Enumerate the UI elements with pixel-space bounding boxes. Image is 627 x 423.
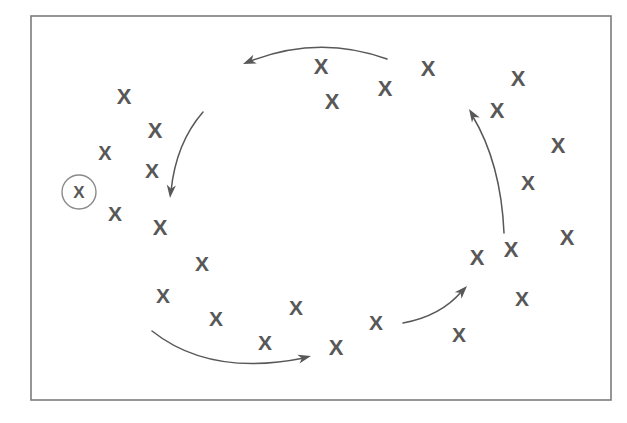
x-marker: X	[521, 171, 535, 194]
x-marker: X	[421, 56, 436, 81]
x-marker: X	[148, 118, 163, 143]
x-marker: X	[195, 252, 209, 275]
x-marker: X	[209, 307, 223, 330]
x-marker: X	[145, 159, 159, 182]
x-marker: X	[551, 133, 566, 158]
x-marker: X	[504, 237, 519, 262]
x-marker: X	[490, 98, 505, 123]
x-marker: X	[289, 296, 303, 319]
x-marker: X	[560, 225, 575, 250]
diagram-figure: XXXXXXXXXXXXXXXXXXXXXXXXXX X	[0, 0, 627, 423]
diagram-canvas: XXXXXXXXXXXXXXXXXXXXXXXXXX X	[0, 0, 627, 423]
x-marker: X	[515, 287, 529, 310]
x-marker: X	[329, 335, 344, 360]
x-marker-highlighted: X	[73, 183, 85, 202]
x-marker: X	[153, 215, 168, 240]
x-marker: X	[98, 142, 112, 164]
x-marker: X	[378, 76, 393, 101]
x-marker: X	[108, 202, 122, 225]
x-marker: X	[452, 323, 466, 346]
x-marker: X	[325, 89, 340, 114]
x-marker: X	[511, 66, 526, 91]
x-marker: X	[258, 331, 272, 354]
x-marker: X	[369, 311, 383, 334]
x-marker: X	[156, 284, 170, 307]
x-marker: X	[470, 245, 485, 270]
x-marker: X	[314, 54, 329, 79]
x-marker: X	[117, 84, 132, 109]
